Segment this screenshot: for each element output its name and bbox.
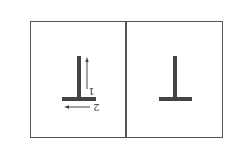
arrow-up-icon: [85, 57, 88, 89]
arrow-1-label: 1: [88, 86, 94, 96]
arrow-left-icon: [64, 105, 90, 108]
right-t-horizontal-bar: [159, 97, 192, 101]
arrow-2-label: 2: [93, 102, 99, 112]
right-t-vertical-bar: [173, 56, 177, 99]
left-arrows: [0, 0, 247, 155]
